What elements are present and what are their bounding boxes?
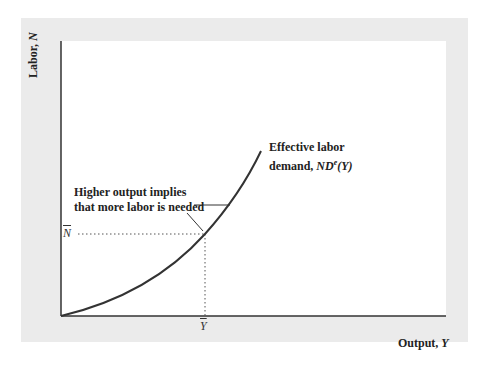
n-bar-tick: N xyxy=(63,226,71,241)
curve-label: Effective labor demand, NDe(Y) xyxy=(269,140,353,174)
y-axis-label: Labor, N xyxy=(26,32,41,78)
x-axis-label: Output, Y xyxy=(398,336,449,351)
annotation-leader-2 xyxy=(187,213,203,231)
y-bar-tick: Y xyxy=(200,319,207,334)
annotation-text: Higher output implies that more labor is… xyxy=(74,185,204,215)
